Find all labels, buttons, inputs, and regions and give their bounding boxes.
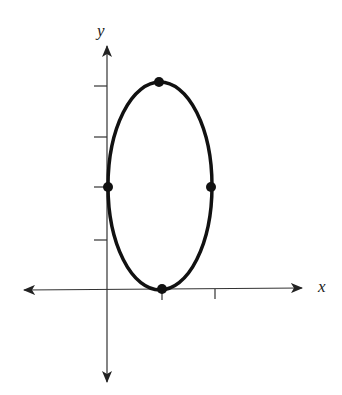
- y-axis-label: y: [95, 21, 105, 40]
- top-vertex-point: [154, 77, 164, 87]
- left-covertex-point: [103, 182, 113, 192]
- marked-points: [103, 77, 216, 294]
- bottom-vertex-point: [157, 284, 167, 294]
- ellipse-curve: [108, 82, 212, 290]
- ellipse-diagram: x y: [0, 0, 342, 395]
- y-ticks: [94, 86, 107, 240]
- x-ticks: [162, 289, 215, 300]
- right-covertex-point: [206, 182, 216, 192]
- x-axis-label: x: [317, 277, 326, 296]
